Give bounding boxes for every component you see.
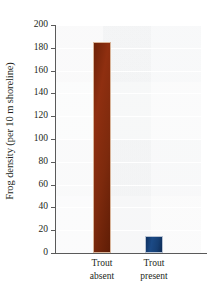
y-axis-tick-mark	[51, 139, 55, 140]
bar-trout-absent	[93, 42, 111, 253]
y-axis-tick-mark	[51, 162, 55, 163]
gridline	[55, 162, 201, 163]
gridline	[55, 48, 201, 49]
y-axis-tick-label: 80	[39, 157, 49, 167]
y-axis-tick-label: 120	[34, 111, 48, 121]
gridline	[55, 116, 201, 117]
bar-chart-figure: Frog density (per 10 m shoreline) 020406…	[0, 0, 213, 302]
y-axis-tick-mark	[51, 253, 55, 254]
gridline	[55, 207, 201, 208]
gridline	[55, 230, 201, 231]
y-axis-tick-mark	[51, 25, 55, 26]
gridline	[55, 139, 201, 140]
x-axis-line	[55, 253, 207, 254]
x-axis-category-label-line: Trout	[92, 258, 113, 268]
y-axis-tick-mark	[51, 93, 55, 94]
y-axis-tick-label: 160	[34, 66, 48, 76]
y-axis-title-container: Frog density (per 10 m shoreline)	[0, 0, 18, 262]
y-axis-tick-label: 200	[34, 20, 48, 30]
x-axis-category-label: Troutpresent	[117, 257, 191, 282]
plot-area	[55, 25, 201, 253]
gridline	[55, 93, 201, 94]
x-axis-category-label-line: present	[117, 270, 191, 283]
y-axis-tick-mark	[51, 116, 55, 117]
y-axis-tick-label: 40	[39, 203, 49, 213]
x-axis-category-label-line: Trout	[144, 258, 165, 268]
y-axis-tick-mark	[51, 71, 55, 72]
y-axis-tick-mark	[51, 185, 55, 186]
x-axis-category-labels: TroutabsentTroutpresent	[55, 257, 201, 297]
y-axis-tick-label: 100	[34, 134, 48, 144]
y-axis-tick-label: 60	[39, 180, 49, 190]
y-axis-tick-label: 0	[43, 248, 48, 258]
y-axis-tick-mark	[51, 207, 55, 208]
y-axis-tick-label-column: 020406080100120140160180200	[18, 0, 52, 262]
gridline	[55, 71, 201, 72]
y-axis-title: Frog density (per 10 m shoreline)	[4, 62, 15, 200]
gridline	[55, 185, 201, 186]
y-axis-tick-label: 140	[34, 89, 48, 99]
gridline	[55, 25, 201, 26]
y-axis-tick-mark	[51, 48, 55, 49]
y-axis-tick-label: 180	[34, 43, 48, 53]
y-axis-tick-label: 20	[39, 225, 49, 235]
bar-trout-present	[145, 236, 163, 253]
y-axis-tick-mark	[51, 230, 55, 231]
y-axis-line	[55, 25, 56, 254]
